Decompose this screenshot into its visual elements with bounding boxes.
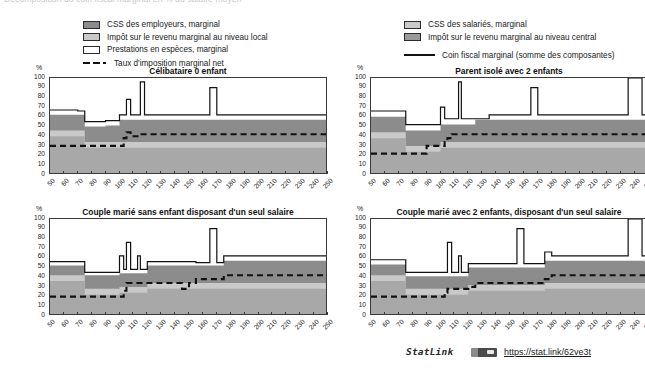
plot-area [49,77,327,174]
x-axis-tick [620,312,621,315]
x-axis-tick-label: 220 [277,177,292,192]
x-axis-tick [537,312,538,315]
x-axis-tick [523,312,524,315]
legend-item-marginal-tax-wedge: Coin fiscal marginal (somme des composan… [404,50,614,61]
y-axis-tick-label: 100 [32,215,45,221]
plot-area [49,218,327,315]
legend-label-employee-sc: CSS des salariés, marginal [428,20,527,29]
x-axis-tick-label: 130 [152,177,167,192]
x-axis-tick-label: 210 [263,318,278,333]
x-axis-tick-label: 120 [459,177,474,192]
x-axis-tick [146,312,147,315]
x-axis-tick-label: 140 [487,177,502,192]
x-axis-tick [565,171,566,174]
y-axis-tick-label: 50 [32,122,45,128]
x-axis-tick [271,312,272,315]
figure-caption: Décomposition du coin fiscal marginal en… [4,0,424,8]
y-axis-tick-label: 10 [353,161,366,167]
x-axis-tick [216,312,217,315]
x-axis-tick-label: 160 [194,318,209,333]
x-axis-tick-label: 250 [319,318,334,333]
x-axis-tick [370,312,371,315]
x-axis-tick-label: 220 [277,318,292,333]
y-axis-tick-label: 40 [353,132,366,138]
x-axis-tick-label: 100 [111,318,126,333]
x-axis-tick [426,171,427,174]
x-axis-tick-label: 70 [390,318,405,333]
legend-label-local-income-tax: Impôt sur le revenu marginal au niveau l… [107,33,268,42]
x-axis-tick [91,312,92,315]
x-axis-tick-label: 100 [432,177,447,192]
x-axis-tick [77,171,78,174]
x-axis-tick [244,171,245,174]
x-axis-tick-label: 230 [612,177,627,192]
chart-title: Couple marié avec 2 enfants, disposant d… [370,207,645,217]
x-axis-tick-label: 170 [529,177,544,192]
x-axis-tick [634,171,635,174]
legend-column-left: CSS des employeurs, marginal Impôt sur l… [83,19,268,70]
x-axis-tick [579,312,580,315]
x-axis-tick-label: 50 [41,177,56,192]
x-axis-tick [467,312,468,315]
y-axis-tick-label: 80 [32,234,45,240]
x-axis-tick [384,171,385,174]
statlink-url[interactable]: https://stat.link/62ve3t [504,347,591,357]
legend-item-local-income-tax: Impôt sur le revenu marginal au niveau l… [83,32,268,43]
y-axis-tick-label: 0 [353,171,366,177]
x-axis-tick [453,171,454,174]
x-axis-tick [244,312,245,315]
chart-title: Parent isolé avec 2 enfants [370,66,645,76]
x-axis-tick [412,171,413,174]
x-axis-tick-label: 230 [291,318,306,333]
y-axis-tick-label: 0 [32,171,45,177]
x-axis-tick [63,171,64,174]
x-axis-tick-label: 100 [111,177,126,192]
x-axis-tick-label: 250 [640,318,645,333]
x-axis-tick-label: 190 [236,318,251,333]
chart-panel-parent-isole-2-enfants: Parent isolé avec 2 enfants%100908070605… [351,66,645,204]
x-axis-tick-label: 60 [55,318,70,333]
x-axis-tick-label: 230 [612,318,627,333]
y-axis-tick-label: 60 [32,253,45,259]
x-axis-tick [160,171,161,174]
x-axis-tick [105,312,106,315]
chart-title: Couple marié sans enfant disposant d'un … [49,207,327,217]
y-axis-unit: % [357,64,363,71]
x-axis-tick [327,312,328,315]
y-axis-unit: % [357,205,363,212]
x-axis-tick [606,171,607,174]
x-axis-tick-label: 160 [194,177,209,192]
x-axis-tick [440,312,441,315]
y-axis-tick-label: 20 [32,151,45,157]
x-axis-tick-label: 150 [180,177,195,192]
y-axis-tick-label: 50 [353,122,366,128]
x-axis-tick [634,312,635,315]
x-axis-tick [592,312,593,315]
y-axis-unit: % [36,205,42,212]
y-axis-tick-label: 30 [32,142,45,148]
x-axis-tick-label: 50 [362,177,377,192]
y-axis-tick-label: 80 [353,234,366,240]
x-axis-tick [285,312,286,315]
x-axis-tick [565,312,566,315]
legend-swatch-local-income-tax [83,33,100,41]
x-axis-tick [384,312,385,315]
x-axis-tick-label: 120 [459,318,474,333]
x-axis-tick [258,312,259,315]
y-axis-tick-label: 60 [353,112,366,118]
y-axis-tick-label: 30 [32,283,45,289]
x-axis-tick [467,171,468,174]
x-axis-tick [230,171,231,174]
x-axis-tick [426,312,427,315]
x-axis-tick-label: 90 [418,177,433,192]
legend-swatch-cash-benefits [83,46,100,54]
x-axis-tick-label: 60 [376,177,391,192]
x-axis-tick [77,312,78,315]
y-axis-tick-label: 50 [32,263,45,269]
y-axis-tick-label: 80 [353,93,366,99]
x-axis-tick-label: 90 [97,177,112,192]
y-axis-tick-label: 90 [32,83,45,89]
x-axis-tick-label: 110 [124,177,139,192]
x-axis-tick [285,171,286,174]
x-axis-tick [495,312,496,315]
